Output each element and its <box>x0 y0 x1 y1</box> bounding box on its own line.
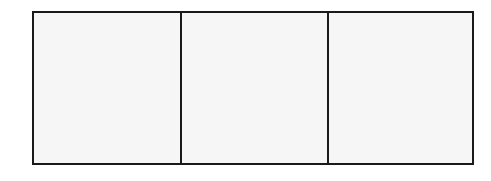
empty-cell-2 <box>180 13 327 163</box>
diagram-canvas <box>0 0 491 181</box>
three-cell-box-row <box>32 11 474 165</box>
empty-cell-3 <box>327 13 472 163</box>
empty-cell-1 <box>34 13 180 163</box>
